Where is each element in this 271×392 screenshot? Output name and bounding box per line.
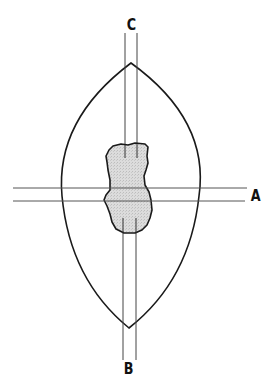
label-a: A xyxy=(251,189,261,204)
label-c: C xyxy=(127,18,136,33)
lens-diagram xyxy=(0,0,271,392)
label-b: B xyxy=(124,362,134,377)
